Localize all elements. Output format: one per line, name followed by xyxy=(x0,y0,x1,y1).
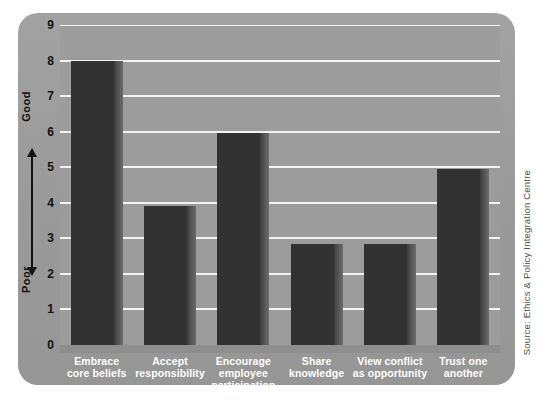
category-label-line: employee xyxy=(204,367,283,379)
y-axis-tick-label: 9 xyxy=(47,19,54,31)
gridline xyxy=(60,202,500,204)
category-label-line: as opportunity xyxy=(350,367,429,379)
bar[interactable] xyxy=(71,61,123,345)
bar-highlight-edge xyxy=(260,133,269,345)
category-label: Embracecore beliefs xyxy=(57,355,136,379)
category-label-line: Embrace xyxy=(57,355,136,367)
category-label-line: another xyxy=(424,367,503,379)
bar[interactable] xyxy=(364,244,416,345)
bar-highlight-edge xyxy=(480,169,489,345)
bar[interactable] xyxy=(437,169,489,345)
category-label: Acceptresponsibility xyxy=(130,355,209,379)
category-label-line: Share xyxy=(277,355,356,367)
category-label-line: participation xyxy=(204,379,283,391)
y-axis-tick-label: 5 xyxy=(47,161,54,173)
axis-good-label: Good xyxy=(20,91,32,122)
y-axis-tick-label: 2 xyxy=(47,268,54,280)
category-label-row: Embracecore beliefsAcceptresponsibilityE… xyxy=(60,355,500,401)
gridline xyxy=(60,273,500,275)
y-axis-tick-label: 6 xyxy=(47,126,54,138)
bar[interactable] xyxy=(144,206,196,345)
y-axis-tick-label: 4 xyxy=(47,197,54,209)
bar-highlight-edge xyxy=(334,244,343,345)
y-axis-tick-label: 0 xyxy=(47,339,54,351)
category-label: Trust oneanother xyxy=(424,355,503,379)
category-label-line: responsibility xyxy=(130,367,209,379)
bar[interactable] xyxy=(217,133,269,345)
category-label-line: Encourage xyxy=(204,355,283,367)
category-label-line: Accept xyxy=(130,355,209,367)
category-label: Shareknowledge xyxy=(277,355,356,379)
gridline xyxy=(60,237,500,239)
bar-highlight-edge xyxy=(407,244,416,345)
y-axis: Good Poor 9876543210 xyxy=(18,13,60,358)
category-label: Encourageemployeeparticipation xyxy=(204,355,283,391)
bar-highlight-edge xyxy=(114,61,123,345)
gridline xyxy=(60,308,500,310)
y-axis-tick-label: 3 xyxy=(47,232,54,244)
category-label-line: core beliefs xyxy=(57,367,136,379)
source-note: Source: Ethics & Policy Integration Cent… xyxy=(521,170,532,355)
bar[interactable] xyxy=(291,244,343,345)
category-label-line: View conflict xyxy=(350,355,429,367)
gridline xyxy=(60,25,500,26)
y-axis-tick-label: 8 xyxy=(47,55,54,67)
category-label: View conflictas opportunity xyxy=(350,355,429,379)
y-axis-tick-label: 7 xyxy=(47,90,54,102)
plot-baseline xyxy=(60,345,500,353)
gridline xyxy=(60,166,500,168)
category-label-line: knowledge xyxy=(277,367,356,379)
bar-highlight-edge xyxy=(187,206,196,345)
gridline xyxy=(60,60,500,62)
category-label-line: Trust one xyxy=(424,355,503,367)
gridline xyxy=(60,95,500,97)
gridline xyxy=(60,131,500,133)
scale-direction-arrow-icon xyxy=(31,156,33,268)
plot-area xyxy=(60,25,500,345)
y-axis-tick-label: 1 xyxy=(47,303,54,315)
